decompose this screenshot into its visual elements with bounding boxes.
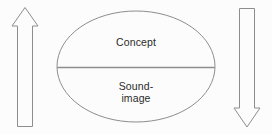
sign-ellipse [57, 11, 215, 122]
ellipse-upper-label-concept: Concept [57, 36, 215, 48]
right-arrow-down-icon [234, 9, 260, 128]
ellipse-lower-label-sound-image: Sound- image [57, 80, 215, 104]
saussure-sign-diagram: Concept Sound- image [0, 0, 272, 134]
left-arrow-up-icon [12, 8, 38, 127]
diagram-canvas [0, 0, 272, 134]
